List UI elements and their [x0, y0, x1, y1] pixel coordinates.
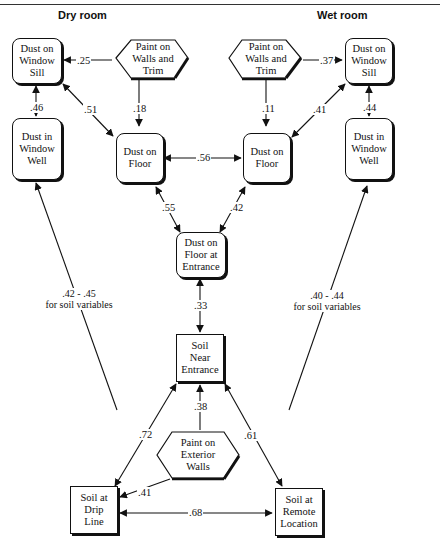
coef-drip-remote: .68	[188, 507, 203, 518]
coef-dry-sill-well: .46	[29, 102, 44, 113]
coef-dry-paint-floor: .18	[132, 103, 147, 114]
node-label: Dust inWindowWell	[19, 131, 55, 167]
note-range: .42 - .45	[40, 288, 118, 299]
path-diagram: Dry room Wet room	[0, 0, 440, 553]
coef-soil-near-drip: .72	[138, 429, 153, 440]
coef-soil-near-remote: .61	[243, 430, 258, 441]
node-dry-window-well: Dust inWindowWell	[12, 118, 62, 180]
node-soil-drip-line: Soil atDripLine	[70, 486, 118, 534]
coef-wet-sill-floor: .41	[312, 104, 327, 115]
node-wet-floor: Dust onFloor	[243, 133, 291, 183]
node-wet-paint-walls-trim: Paint onWalls andTrim	[236, 40, 296, 78]
coef-dry-paint-sill: .25	[76, 55, 91, 66]
node-exterior-paint: Paint onExteriorWalls	[168, 434, 228, 476]
node-label: Dust onFloor	[251, 146, 284, 170]
node-label: Dust onWindowSill	[351, 43, 387, 79]
note-range: .40 - .44	[288, 290, 366, 301]
note-right-soil-variables: .40 - .44 for soil variables	[288, 290, 366, 312]
coef-exterior-drip: .41	[137, 487, 152, 498]
node-label: Dust inWindowWell	[351, 131, 387, 167]
node-label: Dust onFloor atEntrance	[182, 237, 219, 273]
node-dry-window-sill: Dust onWindowSill	[12, 38, 62, 84]
node-label: Paint onWalls andTrim	[245, 41, 286, 77]
note-sub: for soil variables	[288, 301, 366, 312]
node-label: Soil atRemoteLocation	[280, 494, 317, 530]
note-sub: for soil variables	[40, 299, 118, 310]
node-label: Dust onFloor	[124, 146, 157, 170]
node-dry-floor: Dust onFloor	[116, 133, 164, 183]
node-wet-window-sill: Dust onWindowSill	[345, 38, 393, 84]
node-dry-paint-walls-trim: Paint onWalls andTrim	[122, 40, 184, 78]
node-label: Dust onWindowSill	[19, 43, 55, 79]
coef-entrance-soil: .33	[193, 300, 208, 311]
node-soil-near-entrance: SoilNearEntrance	[176, 334, 224, 382]
coef-floor-floor: .56	[196, 152, 211, 163]
note-left-soil-variables: .42 - .45 for soil variables	[40, 288, 118, 310]
coef-exterior-soil-near: .38	[193, 401, 208, 412]
node-entrance-floor: Dust onFloor atEntrance	[176, 232, 226, 278]
coef-wet-paint-floor: .11	[261, 103, 276, 114]
node-soil-remote-location: Soil atRemoteLocation	[275, 488, 323, 536]
coef-wet-floor-entrance: .42	[229, 202, 244, 213]
node-label: Paint onWalls andTrim	[132, 41, 173, 77]
coef-dry-floor-entrance: .55	[161, 202, 176, 213]
coef-wet-paint-sill: .37	[319, 55, 334, 66]
coef-dry-sill-floor: .51	[83, 104, 98, 115]
node-label: SoilNearEntrance	[181, 340, 218, 376]
node-label: Soil atDripLine	[80, 492, 107, 528]
node-wet-window-well: Dust inWindowWell	[345, 118, 393, 180]
node-label: Paint onExteriorWalls	[181, 437, 216, 473]
coef-wet-sill-well: .44	[362, 102, 377, 113]
